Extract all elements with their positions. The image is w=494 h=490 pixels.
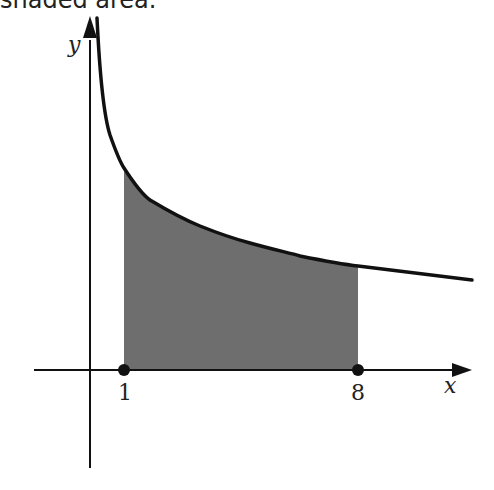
- figure: shaded area. 1 8 x y: [0, 0, 494, 490]
- tick-label-1: 1: [118, 380, 132, 405]
- shaded-area: [124, 168, 358, 370]
- point-x8: [352, 364, 364, 376]
- y-axis-label: y: [67, 32, 81, 57]
- y-axis-arrow-icon: [83, 16, 97, 38]
- point-x1: [118, 364, 130, 376]
- chart: 1 8 x y: [0, 0, 494, 490]
- tick-label-8: 8: [351, 380, 365, 405]
- x-axis-label: x: [444, 373, 457, 398]
